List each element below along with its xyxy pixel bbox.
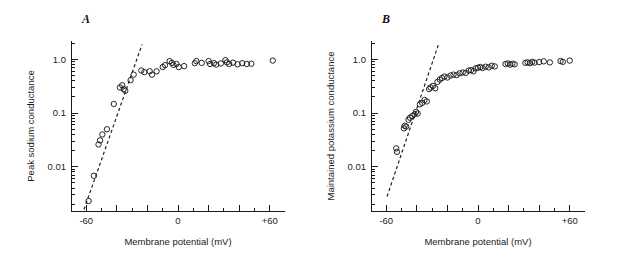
data-point	[199, 60, 204, 65]
y-tick-label: 1.0	[353, 54, 366, 65]
x-tick-label: +60	[262, 215, 278, 226]
y-axis-title: Maintained potassium conductance	[325, 52, 336, 201]
data-point	[567, 58, 572, 63]
x-tick-label: -60	[379, 215, 393, 226]
x-tick-label: +60	[562, 215, 578, 226]
panel-a-plot: 1.00.10.01-600+60Membrane potential (mV)…	[0, 0, 310, 263]
data-point	[270, 58, 275, 63]
data-point-group	[86, 57, 276, 203]
data-point	[111, 101, 116, 106]
x-axis-title: Membrane potential (mV)	[124, 236, 231, 247]
panel-b: B 1.00.10.01-600+60Membrane potential (m…	[310, 0, 620, 263]
x-axis-title: Membrane potential (mV)	[424, 236, 531, 247]
panel-b-plot: 1.00.10.01-600+60Membrane potential (mV)…	[310, 0, 620, 263]
data-point	[394, 149, 399, 154]
y-tick-label: 1.0	[53, 54, 66, 65]
fit-line	[387, 45, 438, 196]
data-point	[154, 69, 159, 74]
x-tick-label: -60	[79, 215, 93, 226]
data-point	[104, 127, 109, 132]
panel-a: A 1.00.10.01-600+60Membrane potential (m…	[0, 0, 310, 263]
data-point	[131, 72, 136, 77]
fit-line	[84, 44, 142, 209]
data-point	[181, 63, 186, 68]
y-tick-label: 0.1	[53, 107, 66, 118]
y-axis-title: Peak sodium conductance	[25, 70, 36, 181]
y-tick-label: 0.1	[353, 107, 366, 118]
y-tick-label: 0.01	[348, 161, 367, 172]
x-tick-label: 0	[175, 215, 180, 226]
x-tick-label: 0	[475, 215, 480, 226]
y-tick-label: 0.01	[48, 161, 67, 172]
figure-root: A 1.00.10.01-600+60Membrane potential (m…	[0, 0, 620, 263]
data-point	[547, 60, 552, 65]
data-point	[100, 132, 105, 137]
data-point-group	[394, 58, 573, 155]
